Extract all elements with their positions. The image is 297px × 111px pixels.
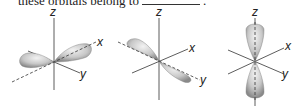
px-orbital-diagram: z x y — [12, 5, 104, 90]
pz-orbital-diagram: z x y — [228, 5, 292, 106]
x-axis-label: x — [284, 39, 292, 53]
z-axis-label: z — [251, 5, 258, 19]
orbital-figure: z x y z x y z x y — [0, 0, 297, 111]
z-axis-label: z — [49, 5, 56, 19]
y-axis-label: y — [281, 67, 289, 81]
py-orbital-diagram: z x y — [118, 5, 207, 100]
x-axis-label: x — [96, 35, 104, 49]
z-axis-label: z — [155, 5, 162, 19]
y-axis-label: y — [79, 67, 87, 81]
y-axis-label: y — [199, 73, 207, 87]
x-axis-label: x — [188, 41, 196, 55]
